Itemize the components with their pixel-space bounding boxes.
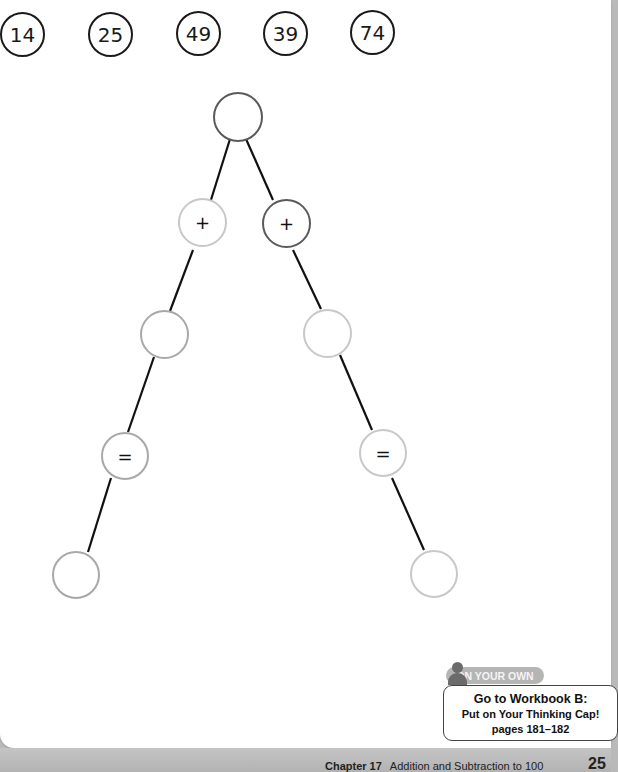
callout-line-2: Put on Your Thinking Cap! — [444, 707, 617, 722]
right-result-node[interactable] — [410, 550, 458, 598]
right-plus-node: + — [262, 199, 311, 248]
callout-line-1: Go to Workbook B: — [444, 691, 617, 707]
footer-chapter: Chapter 17Addition and Subtraction to 10… — [325, 760, 543, 772]
callout-line-3: pages 181–182 — [444, 722, 617, 737]
page-number: 25 — [588, 755, 606, 772]
root-node[interactable] — [213, 92, 263, 142]
left-plus-node: + — [178, 198, 227, 247]
right-equals-node: = — [359, 429, 407, 477]
workbook-callout: Go to Workbook B: Put on Your Thinking C… — [443, 685, 618, 741]
chapter-label: Chapter 17 — [325, 760, 382, 772]
right-addend-node[interactable] — [303, 309, 352, 358]
left-equals-node: = — [101, 432, 149, 480]
person-icon — [452, 662, 463, 673]
left-result-node[interactable] — [52, 551, 100, 599]
tag-label: ON YOUR OWN — [456, 670, 533, 682]
left-addend-node[interactable] — [140, 310, 189, 359]
person-icon-body — [448, 673, 467, 685]
chapter-title: Addition and Subtraction to 100 — [390, 760, 544, 772]
